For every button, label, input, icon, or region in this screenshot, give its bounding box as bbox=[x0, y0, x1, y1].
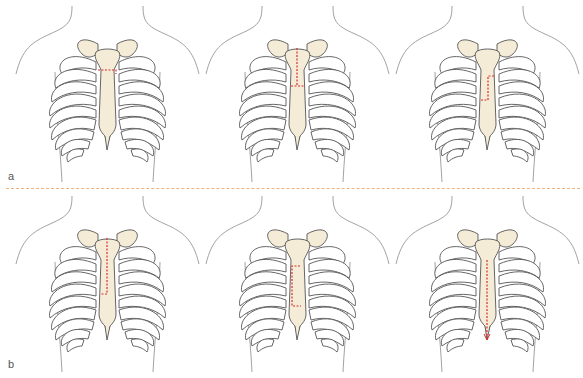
row-label-a: a bbox=[8, 170, 14, 182]
ribcage-illustration bbox=[10, 4, 205, 184]
ribcage-illustration bbox=[200, 194, 395, 374]
panel-b1 bbox=[10, 194, 205, 374]
row-label-b: b bbox=[8, 358, 14, 370]
ribcage-illustration bbox=[390, 194, 583, 374]
ribcage-illustration bbox=[10, 194, 205, 374]
panel-a3 bbox=[390, 4, 583, 184]
ribcage-illustration bbox=[390, 4, 583, 184]
panel-b2 bbox=[200, 194, 395, 374]
panel-b3 bbox=[390, 194, 583, 374]
panel-a2 bbox=[200, 4, 395, 184]
section-divider bbox=[6, 188, 580, 189]
ribcage-illustration bbox=[200, 4, 395, 184]
panel-a1 bbox=[10, 4, 205, 184]
